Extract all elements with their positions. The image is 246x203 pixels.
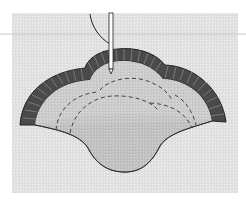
needle-icon [109, 13, 113, 74]
applique-illustration [0, 0, 246, 203]
